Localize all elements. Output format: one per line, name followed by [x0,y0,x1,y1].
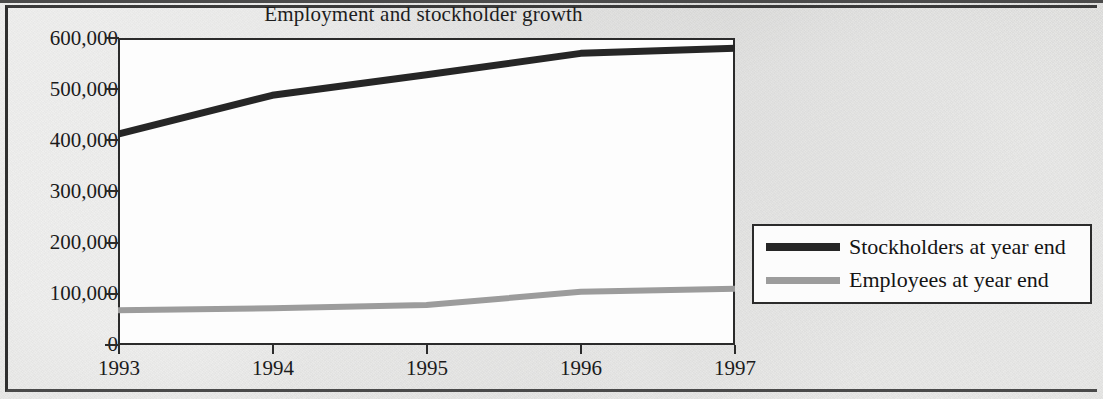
line-stockholders [118,48,735,134]
y-tick-label-600000: 600,000 [18,26,118,51]
y-tick-label-0: 0 [18,332,118,357]
x-tick-label-1997: 1997 [690,356,780,381]
y-tick-label-500000: 500,000 [18,77,118,102]
plot-lines [118,38,735,345]
y-tick-mark-600000 [105,37,119,39]
y-tick-mark-300000 [105,190,119,192]
chart-legend: Stockholders at year end Employees at ye… [752,224,1092,304]
legend-item-employees: Employees at year end [766,269,1049,291]
x-tick-mark-1997 [734,345,736,354]
x-tick-mark-1996 [580,345,582,354]
y-tick-mark-100000 [105,293,119,295]
y-tick-mark-0 [105,344,119,346]
line-employees [118,289,735,310]
chart-figure: Employment and stockholder growth 600,00… [0,0,1103,399]
y-tick-mark-500000 [105,88,119,90]
x-tick-label-1994: 1994 [228,356,318,381]
y-tick-label-400000: 400,000 [18,128,118,153]
legend-swatch-stockholders-icon [766,243,840,251]
legend-label-employees: Employees at year end [849,269,1049,291]
x-tick-mark-1993 [118,345,120,354]
x-tick-label-1996: 1996 [536,356,626,381]
chart-title: Employment and stockholder growth [0,2,975,27]
x-tick-label-1995: 1995 [382,356,472,381]
y-axis: 600,000 500,000 400,000 300,000 200,000 … [0,0,118,399]
y-tick-label-300000: 300,000 [18,179,118,204]
x-tick-label-1993: 1993 [74,356,164,381]
x-tick-mark-1995 [426,345,428,354]
y-tick-mark-200000 [105,242,119,244]
y-tick-label-200000: 200,000 [18,230,118,255]
y-tick-label-100000: 100,000 [18,281,118,306]
x-tick-mark-1994 [272,345,274,354]
legend-label-stockholders: Stockholders at year end [849,236,1066,258]
legend-item-stockholders: Stockholders at year end [766,236,1066,258]
legend-swatch-employees-icon [766,277,840,284]
y-tick-mark-400000 [105,139,119,141]
